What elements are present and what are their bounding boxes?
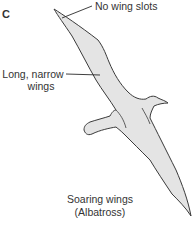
bird-body-shape	[54, 9, 191, 216]
annotation-line-2: wings	[2, 80, 64, 92]
annotation-long-narrow-wings: Long, narrow wings	[2, 68, 64, 92]
figure-caption: Soaring wings (Albatross)	[40, 193, 160, 219]
caption-line-1: Soaring wings	[40, 193, 160, 206]
annotation-line-1: Long, narrow	[2, 68, 64, 80]
caption-line-2: (Albatross)	[40, 206, 160, 219]
leader-line-no-wing-slots	[62, 6, 92, 18]
annotation-no-wing-slots: No wing slots	[95, 0, 157, 12]
